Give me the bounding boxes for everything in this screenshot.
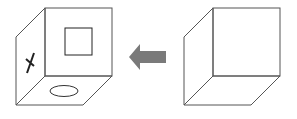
front-face xyxy=(45,8,112,76)
diagram-canvas xyxy=(0,0,297,119)
ellipse-icon xyxy=(50,86,78,97)
left-cube xyxy=(16,8,112,105)
front-face xyxy=(213,8,280,76)
arrow-left-icon xyxy=(129,44,166,70)
right-cube xyxy=(184,8,280,105)
bottom-face xyxy=(184,76,280,105)
x-mark-icon xyxy=(26,53,34,73)
square-icon xyxy=(65,28,92,55)
bottom-face xyxy=(16,76,112,105)
